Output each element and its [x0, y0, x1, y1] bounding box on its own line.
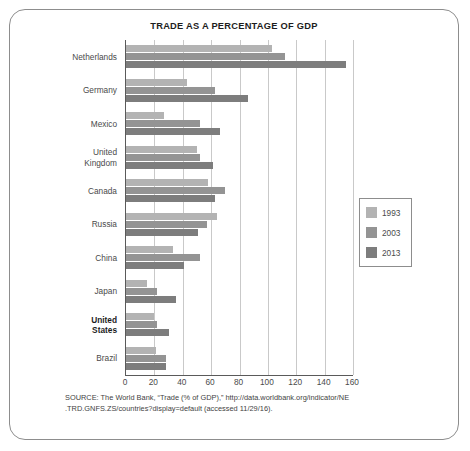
category-label: Japan	[51, 286, 117, 297]
bar	[126, 221, 207, 228]
bar	[126, 95, 248, 102]
legend-label: 2013	[382, 248, 400, 258]
category-axis-labels: NetherlandsGermanyMexicoUnitedKingdomCan…	[54, 40, 121, 375]
plot-area: NetherlandsGermanyMexicoUnitedKingdomCan…	[54, 40, 354, 385]
gridline	[268, 40, 269, 375]
bar	[126, 347, 156, 354]
bar	[126, 313, 154, 320]
chart-legend: 199320032013	[359, 198, 412, 267]
bar	[126, 45, 272, 52]
gridline	[240, 40, 241, 375]
category-label: Mexico	[51, 119, 117, 130]
gridline	[325, 40, 326, 375]
x-tick-label: 0	[123, 377, 128, 387]
legend-item[interactable]: 1993	[366, 205, 406, 220]
bar	[126, 112, 164, 119]
x-axis-tick-labels: 020406080100120140160	[125, 377, 352, 391]
chart-title: TRADE AS A PERCENTAGE OF GDP	[10, 21, 458, 31]
bar	[126, 296, 176, 303]
plot-canvas	[125, 40, 353, 376]
source-line-2: .TRD.GNFS.ZS/countries?display=default (…	[65, 403, 415, 414]
chart-card: TRADE AS A PERCENTAGE OF GDP Netherlands…	[9, 9, 459, 440]
x-tick-label: 100	[260, 377, 274, 387]
legend-label: 1993	[382, 208, 400, 218]
category-label: UnitedStates	[51, 314, 117, 335]
bar	[126, 262, 184, 269]
bar	[126, 355, 166, 362]
legend-label: 2003	[382, 228, 400, 238]
legend-item[interactable]: 2003	[366, 225, 406, 240]
x-tick-label: 60	[206, 377, 215, 387]
bar	[126, 179, 208, 186]
bar	[126, 195, 215, 202]
bar	[126, 213, 217, 220]
bar	[126, 120, 200, 127]
x-tick-label: 160	[345, 377, 359, 387]
bar	[126, 128, 220, 135]
source-note: SOURCE: The World Bank, “Trade (% of GDP…	[65, 392, 415, 414]
bar	[126, 146, 197, 153]
legend-item[interactable]: 2013	[366, 245, 406, 260]
x-tick-label: 140	[317, 377, 331, 387]
x-tick-label: 80	[234, 377, 243, 387]
category-label: Germany	[51, 85, 117, 96]
category-label: China	[51, 253, 117, 264]
bar	[126, 288, 157, 295]
bar	[126, 79, 187, 86]
category-label: Netherlands	[51, 52, 117, 63]
bar	[126, 329, 169, 336]
category-label: Brazil	[51, 353, 117, 364]
category-label: Russia	[51, 219, 117, 230]
category-label: UnitedKingdom	[51, 147, 117, 168]
bar	[126, 229, 198, 236]
bar	[126, 187, 225, 194]
legend-swatch-icon	[366, 207, 377, 218]
source-line-1: SOURCE: The World Bank, “Trade (% of GDP…	[65, 392, 415, 403]
bar	[126, 254, 200, 261]
bar	[126, 162, 213, 169]
x-tick-label: 20	[149, 377, 158, 387]
bar	[126, 280, 147, 287]
x-tick-label: 120	[288, 377, 302, 387]
gridline	[296, 40, 297, 375]
legend-swatch-icon	[366, 247, 377, 258]
x-tick-label: 40	[177, 377, 186, 387]
bar	[126, 87, 215, 94]
bar	[126, 61, 346, 68]
bar	[126, 53, 285, 60]
category-label: Canada	[51, 186, 117, 197]
gridline	[353, 40, 354, 375]
bar	[126, 154, 200, 161]
bar	[126, 363, 166, 370]
bar	[126, 246, 173, 253]
legend-swatch-icon	[366, 227, 377, 238]
bar	[126, 321, 157, 328]
